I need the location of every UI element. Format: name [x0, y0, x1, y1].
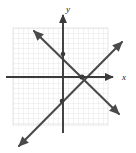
point-y-intercept-negative-line	[61, 52, 66, 57]
point-y-intercept-positive-line	[60, 99, 65, 104]
y-axis-label: y	[65, 4, 70, 14]
x-axis-label: x	[121, 72, 126, 82]
point-intersection	[79, 74, 84, 79]
coordinate-plane-figure: x y	[0, 0, 136, 153]
graph-canvas: x y	[0, 0, 136, 153]
